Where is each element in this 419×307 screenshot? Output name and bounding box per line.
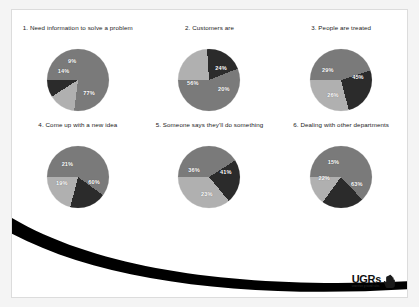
logo-text-block: UGRs unwritten ground rules: [352, 274, 381, 289]
chart-cell-5: 5. Someone says they'll do something 41%…: [153, 121, 265, 208]
pie-slice-label: 60%: [88, 179, 100, 185]
chart-cell-1: 1. Need information to solve a problem 7…: [22, 24, 134, 111]
pie-slice-label: 15%: [328, 159, 340, 165]
chart-title-2: 2. Customers are: [185, 24, 234, 48]
pie-chart-5: 41%23%36%: [178, 146, 240, 208]
pie-slice-label: 19%: [56, 180, 68, 186]
pie-chart-6: 63%22%15%: [310, 146, 372, 208]
pie-slices-4: [47, 146, 109, 208]
pie-slices-5: [178, 146, 240, 208]
pie-slice-label: 24%: [215, 65, 227, 71]
pie-slice-label: 14%: [58, 68, 70, 74]
logo-tagline: unwritten ground rules: [352, 286, 380, 289]
pie-chart-1: 77%14%9%: [47, 49, 109, 111]
chart-row-bottom: 4. Come up with a new idea 60%19%21% 5. …: [12, 121, 407, 208]
chart-cell-4: 4. Come up with a new idea 60%19%21%: [22, 121, 134, 208]
pie-chart-2: 24%20%56%: [178, 49, 240, 111]
chart-cell-6: 6. Dealing with other departments 63%22%…: [285, 121, 397, 208]
pie-slice-label: 56%: [187, 80, 199, 86]
pie-slice-label: 22%: [318, 175, 330, 181]
pie-chart-4: 60%19%21%: [47, 146, 109, 208]
chart-title-4: 4. Come up with a new idea: [38, 121, 117, 145]
chart-title-5: 5. Someone says they'll do something: [156, 121, 264, 145]
logo-wordmark: UGRs: [352, 274, 381, 285]
pointing-hand-icon: [383, 274, 398, 289]
chart-cell-3: 3. People are treated 45%26%29%: [285, 24, 397, 111]
pie-slice-label: 36%: [188, 167, 200, 173]
pie-slice-label: 45%: [352, 74, 364, 80]
pie-slice-label: 21%: [62, 161, 74, 167]
slide-canvas: 1. Need information to solve a problem 7…: [11, 9, 408, 298]
pie-slices-1: [47, 49, 109, 111]
pie-slice-label: 41%: [220, 169, 232, 175]
chart-cell-2: 2. Customers are 24%20%56%: [153, 24, 265, 111]
chart-row-top: 1. Need information to solve a problem 7…: [12, 24, 407, 111]
chart-grid: 1. Need information to solve a problem 7…: [12, 10, 407, 208]
pie-slice-label: 9%: [68, 58, 76, 64]
pie-slice-label: 20%: [218, 86, 230, 92]
pie-slice-label: 29%: [322, 67, 334, 73]
pie-slice-label: 63%: [351, 181, 363, 187]
pie-chart-3: 45%26%29%: [310, 49, 372, 111]
pie-slice-label: 23%: [201, 191, 213, 197]
chart-title-6: 6. Dealing with other departments: [293, 121, 389, 145]
chart-title-3: 3. People are treated: [311, 24, 371, 48]
ugrs-logo: UGRs unwritten ground rules: [352, 274, 398, 289]
chart-title-1: 1. Need information to solve a problem: [23, 24, 133, 48]
pie-slice-label: 77%: [83, 90, 95, 96]
pie-slice-label: 26%: [327, 92, 339, 98]
